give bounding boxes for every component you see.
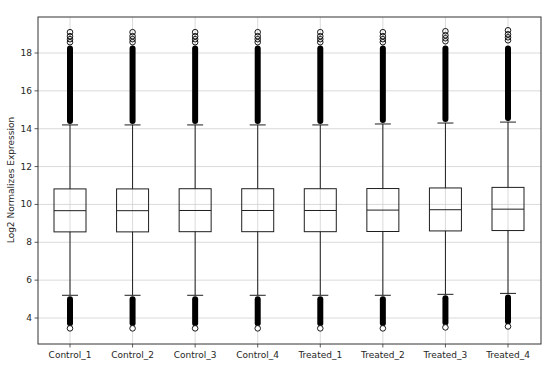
y-tick-label: 10 bbox=[21, 199, 33, 209]
outliers-high-dense bbox=[192, 45, 198, 124]
outliers-high-dense bbox=[255, 45, 261, 124]
outlier-point bbox=[130, 326, 136, 332]
outlier-point bbox=[67, 326, 73, 332]
outliers-low-dense bbox=[317, 296, 323, 326]
outliers-low-dense bbox=[442, 295, 448, 325]
boxplot-chart: 4681012141618 Control_1Control_2Control_… bbox=[0, 0, 554, 370]
x-axis: Control_1Control_2Control_3Control_4Trea… bbox=[49, 344, 531, 360]
x-tick-label: Control_1 bbox=[49, 350, 92, 360]
box-treated-3 bbox=[429, 28, 461, 330]
box-treated-4 bbox=[492, 27, 524, 329]
outliers-high-dense bbox=[67, 45, 73, 124]
outliers-high-dense bbox=[380, 45, 386, 123]
x-tick-label: Treated_2 bbox=[360, 350, 405, 360]
outlier-point bbox=[192, 326, 198, 332]
x-tick-label: Control_2 bbox=[111, 350, 154, 360]
box-treated-1 bbox=[304, 29, 336, 331]
outliers-low-dense bbox=[255, 296, 261, 326]
y-tick-label: 12 bbox=[21, 162, 32, 172]
outliers-low-dense bbox=[380, 296, 386, 326]
box-control-4 bbox=[242, 29, 274, 331]
outliers-high-dense bbox=[130, 45, 136, 124]
outliers-high-dense bbox=[317, 45, 323, 124]
boxes bbox=[54, 27, 524, 331]
outlier-point bbox=[505, 324, 511, 330]
y-axis: 4681012141618 bbox=[21, 48, 38, 323]
outlier-point bbox=[380, 326, 386, 332]
outliers-low-dense bbox=[505, 294, 511, 324]
outliers-high-dense bbox=[505, 45, 511, 121]
x-tick-label: Treated_4 bbox=[485, 350, 530, 360]
y-axis-label: Log2 Normalizes Expression bbox=[6, 117, 16, 243]
box-control-1 bbox=[54, 29, 86, 331]
box-treated-2 bbox=[367, 29, 399, 331]
outlier-point bbox=[317, 326, 323, 332]
outliers-low-dense bbox=[130, 296, 136, 326]
gridlines bbox=[38, 17, 541, 344]
x-tick-label: Treated_3 bbox=[423, 350, 468, 360]
outliers-low-dense bbox=[67, 296, 73, 326]
x-tick-label: Control_4 bbox=[236, 350, 279, 360]
y-tick-label: 16 bbox=[21, 86, 33, 96]
y-tick-label: 4 bbox=[26, 313, 32, 323]
outlier-point bbox=[443, 325, 449, 331]
box-control-2 bbox=[117, 29, 149, 331]
outlier-point bbox=[255, 326, 261, 332]
box-control-3 bbox=[179, 29, 211, 331]
x-tick-label: Treated_1 bbox=[297, 350, 342, 360]
y-tick-label: 18 bbox=[21, 48, 33, 58]
y-tick-label: 14 bbox=[21, 124, 33, 134]
y-tick-label: 8 bbox=[26, 237, 32, 247]
x-tick-label: Control_3 bbox=[174, 350, 217, 360]
y-tick-label: 6 bbox=[26, 275, 32, 285]
plot-frame bbox=[38, 17, 541, 344]
outliers-high-dense bbox=[442, 45, 448, 122]
outliers-low-dense bbox=[192, 296, 198, 326]
